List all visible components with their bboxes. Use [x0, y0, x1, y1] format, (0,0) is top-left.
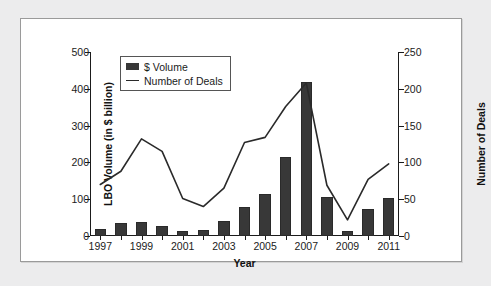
- x-tick-label: 2009: [328, 240, 368, 252]
- line-swatch-icon: [126, 80, 139, 81]
- bar-swatch-icon: [126, 63, 139, 70]
- legend-item-volume: $ Volume: [126, 60, 223, 73]
- x-tick-label: 2011: [369, 240, 409, 252]
- x-tick-label: 2001: [163, 240, 203, 252]
- y-tick-label: 500: [47, 47, 89, 57]
- y2-tick-label: 100: [404, 157, 446, 167]
- x-tick-label: 1999: [122, 240, 162, 252]
- x-axis-title: Year: [90, 257, 399, 269]
- y-tick-label: 300: [47, 121, 89, 131]
- y2-tick-label: 50: [404, 194, 446, 204]
- legend-item-deals: Number of Deals: [126, 74, 223, 87]
- x-tick-label: 2007: [286, 240, 326, 252]
- x-tick-label: 1997: [80, 240, 120, 252]
- y2-tick-label: 200: [404, 84, 446, 94]
- x-tick-label: 2003: [204, 240, 244, 252]
- legend-label-deals: Number of Deals: [144, 75, 223, 87]
- plot-area: LBO Volume (in $ billion) Number of Deal…: [90, 52, 399, 236]
- legend-label-volume: $ Volume: [144, 61, 188, 73]
- chart-page: LBO Volume (in $ billion) Number of Deal…: [0, 0, 491, 286]
- y2-tick-label: 0: [404, 231, 446, 241]
- y-tick-label: 100: [47, 194, 89, 204]
- y-tick-label: 400: [47, 84, 89, 94]
- x-tick-label: 2005: [245, 240, 285, 252]
- y2-tick-label: 250: [404, 47, 446, 57]
- y-tick-label: 200: [47, 157, 89, 167]
- y2-axis-title: Number of Deals: [475, 102, 487, 185]
- chart-legend: $ Volume Number of Deals: [120, 56, 231, 91]
- chart-panel: LBO Volume (in $ billion) Number of Deal…: [20, 18, 462, 262]
- y2-tick-label: 150: [404, 121, 446, 131]
